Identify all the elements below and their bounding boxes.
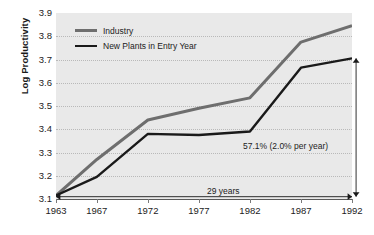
- x-axis-tick-mark: [352, 199, 353, 203]
- legend-line-swatch: [75, 45, 97, 47]
- y-axis-tick-label: 3.7: [24, 54, 52, 65]
- legend-item: Industry: [75, 24, 235, 37]
- chart-legend: IndustryNew Plants in Entry Year: [75, 24, 235, 54]
- x-axis-tick-label: 1987: [279, 205, 323, 216]
- x-axis-tick-mark: [250, 199, 251, 203]
- x-axis-tick-label: 1977: [177, 205, 221, 216]
- x-axis-tick-label: 1982: [228, 205, 272, 216]
- x-axis-tick-label: 1972: [126, 205, 170, 216]
- gridline: [56, 129, 352, 130]
- span-years-annotation: 29 years: [204, 186, 243, 196]
- legend-item-label: New Plants in Entry Year: [103, 41, 197, 51]
- x-axis-tick-mark: [199, 199, 200, 203]
- y-axis-tick-label: 3.2: [24, 170, 52, 181]
- x-axis-tick-label: 1963: [34, 205, 78, 216]
- legend-item-label: Industry: [103, 26, 133, 36]
- chart-figure: Log Productivity 3.93.83.73.63.53.43.33.…: [0, 0, 374, 235]
- x-axis-tick-mark: [301, 199, 302, 203]
- x-axis-tick-mark: [56, 199, 57, 203]
- y-axis-tick-label: 3.5: [24, 100, 52, 111]
- x-axis-tick-label: 1967: [75, 205, 119, 216]
- gridline: [56, 83, 352, 84]
- x-axis-tick-label: 1992: [330, 205, 374, 216]
- y-axis-tick-label: 3.6: [24, 77, 52, 88]
- x-axis-line: [56, 199, 352, 200]
- legend-line-swatch: [75, 29, 97, 32]
- arrow-head: [353, 58, 360, 62]
- gridline: [56, 106, 352, 107]
- gridline: [56, 153, 352, 154]
- gridline: [56, 60, 352, 61]
- x-axis-tick-mark: [97, 199, 98, 203]
- y-axis-tick-label: 3.1: [24, 193, 52, 204]
- y-axis-tick-label: 3.9: [24, 7, 52, 18]
- y-axis-tick-label: 3.8: [24, 30, 52, 41]
- y-axis-tick-label: 3.3: [24, 147, 52, 158]
- arrow-head: [353, 192, 360, 196]
- legend-item: New Plants in Entry Year: [75, 39, 235, 52]
- x-axis-tick-mark: [148, 199, 149, 203]
- y-axis-tick-label: 3.4: [24, 123, 52, 134]
- growth-percent-annotation: 57.1% (2.0% per year): [243, 141, 328, 151]
- gridline: [56, 176, 352, 177]
